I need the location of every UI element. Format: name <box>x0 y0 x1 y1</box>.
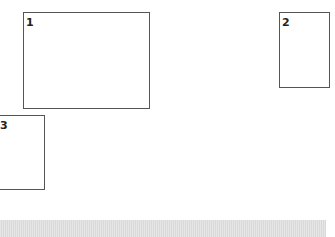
region-label-2: 2 <box>282 17 290 29</box>
bottom-bar <box>0 220 326 237</box>
region-label-3: 3 <box>0 120 8 132</box>
region-box-3: 3 <box>0 115 45 190</box>
region-label-1: 1 <box>26 17 34 29</box>
region-box-1: 1 <box>23 12 150 109</box>
region-box-2: 2 <box>279 12 330 88</box>
